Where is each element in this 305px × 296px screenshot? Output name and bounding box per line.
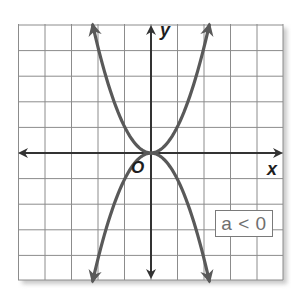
coordinate-plane <box>0 0 305 296</box>
legend-box: a < 0 <box>215 210 273 237</box>
legend-text: a < 0 <box>221 213 266 235</box>
x-axis-label: x <box>267 159 277 180</box>
parabola-graph-figure: y x O a < 0 <box>0 0 305 296</box>
origin-label: O <box>131 158 144 178</box>
y-axis-label: y <box>160 20 170 41</box>
